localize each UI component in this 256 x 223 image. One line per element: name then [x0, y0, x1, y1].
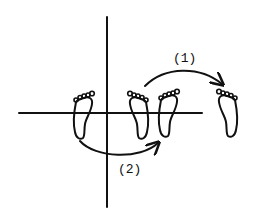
footprint-icon-a: [74, 91, 94, 139]
arrow-2-icon: [80, 141, 158, 155]
footprint-diagram: (1) (2): [0, 0, 256, 223]
footprint-icon-b: [128, 91, 148, 139]
arrow-1-icon: [145, 71, 222, 86]
footprint-icon-d: [217, 89, 237, 137]
arrow-1-label: (1): [173, 51, 196, 66]
arrow-2-label: (2): [118, 162, 141, 177]
